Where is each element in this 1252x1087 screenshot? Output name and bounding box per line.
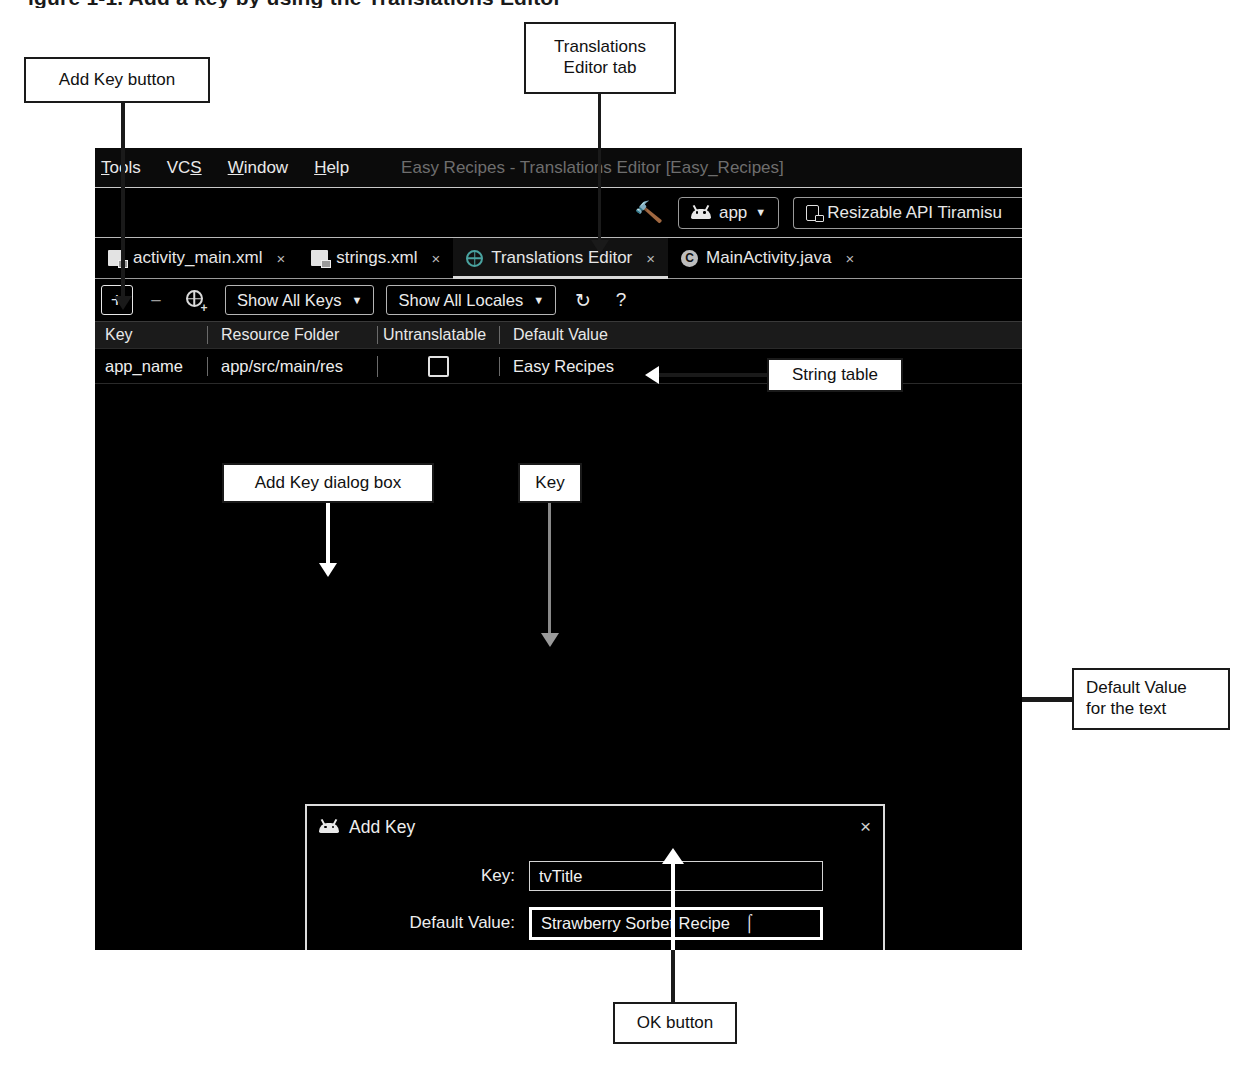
chevron-down-icon: ▼ [533, 295, 544, 306]
cell-resource-folder[interactable]: app/src/main/res [207, 357, 377, 376]
show-all-keys-filter[interactable]: Show All Keys ▼ [225, 285, 374, 315]
tab-mainactivity-java[interactable]: C MainActivity.java × [668, 238, 867, 278]
tab-translations-editor[interactable]: Translations Editor × [453, 238, 668, 278]
key-field-label: Key: [307, 866, 529, 886]
tab-activity-main-xml[interactable]: activity_main.xml × [95, 238, 298, 278]
show-all-locales-label: Show All Locales [398, 291, 523, 310]
callout-translations-editor-tab-line2: Editor tab [564, 58, 637, 79]
main-toolbar: 🔨 app ▼ Resizable API Tiramisu [95, 188, 1022, 238]
callout-ok-button-label: OK button [637, 1013, 714, 1034]
callout-translations-editor-tab: Translations Editor tab [524, 22, 676, 94]
arrowhead-string-table [645, 366, 659, 384]
run-configuration-label: app [719, 203, 747, 223]
leader-ok-button [671, 950, 675, 1002]
menu-item-vcs[interactable]: VCS [167, 158, 202, 178]
default-value-input[interactable]: Strawberry Sorbet Recipe ⌠ [529, 907, 823, 940]
callout-key: Key [518, 463, 582, 503]
leader-add-key-button [121, 103, 125, 303]
tab-activity-main-xml-label: activity_main.xml [133, 248, 262, 268]
close-icon[interactable]: × [845, 250, 854, 267]
key-input-value: tvTitle [539, 867, 582, 886]
callout-translations-editor-tab-line1: Translations [554, 37, 646, 58]
add-key-dialog: Add Key × Key: tvTitle Default Value: St… [305, 804, 885, 950]
callout-add-key-dialog-label: Add Key dialog box [255, 473, 402, 494]
figure-caption-text: igure 1-1. Add a key by using the Transl… [28, 0, 728, 8]
close-icon[interactable]: × [276, 250, 285, 267]
chevron-down-icon: ▼ [352, 295, 363, 306]
editor-tab-bar: activity_main.xml × strings.xml × Transl… [95, 238, 1022, 279]
callout-string-table: String table [767, 358, 903, 392]
tab-mainactivity-java-label: MainActivity.java [706, 248, 831, 268]
device-label: Resizable API Tiramisu [827, 203, 1002, 223]
callout-default-value-line1: Default Value [1086, 678, 1187, 699]
close-icon[interactable]: × [860, 816, 871, 838]
callout-add-key-button-label: Add Key button [59, 70, 175, 91]
menu-bar: Tools VCS Window Help Easy Recipes - Tra… [95, 148, 1022, 188]
callout-ok-button: OK button [613, 1002, 737, 1044]
cell-key[interactable]: app_name [95, 357, 207, 376]
show-all-locales-filter[interactable]: Show All Locales ▼ [386, 285, 556, 315]
arrowhead-add-key-dialog [319, 563, 337, 577]
hammer-icon[interactable]: 🔨 [633, 198, 663, 228]
leader-ok-button-inner [671, 862, 675, 950]
tab-strings-xml-label: strings.xml [336, 248, 417, 268]
string-table-header: Key Resource Folder Untranslatable Defau… [95, 321, 1022, 348]
device-selector[interactable]: Resizable API Tiramisu [793, 197, 1022, 229]
refresh-icon: ↻ [575, 289, 591, 312]
menu-item-window[interactable]: Window [228, 158, 288, 178]
tab-strings-xml[interactable]: strings.xml × [298, 238, 453, 278]
close-icon[interactable]: × [646, 250, 655, 267]
column-header-default-value[interactable]: Default Value [499, 326, 1022, 344]
callout-string-table-label: String table [792, 365, 878, 386]
xml-values-icon [311, 250, 328, 266]
leader-default-value [1022, 697, 1072, 702]
globe-icon [466, 250, 483, 267]
translations-editor-toolbar: + – + Show All Keys ▼ Show All Locales ▼… [95, 279, 1022, 321]
leader-string-table [655, 373, 767, 377]
arrowhead-translations-editor-tab [591, 240, 609, 254]
add-locale-button[interactable]: + [179, 286, 209, 314]
android-robot-icon [319, 821, 339, 833]
menu-item-tools-rest: ools [110, 158, 141, 177]
run-configuration-selector[interactable]: app ▼ [678, 197, 779, 229]
untranslatable-checkbox[interactable] [428, 356, 449, 377]
java-class-icon: C [681, 250, 698, 267]
callout-add-key-dialog: Add Key dialog box [222, 463, 434, 503]
android-robot-icon [691, 207, 711, 219]
callout-add-key-button: Add Key button [24, 57, 210, 103]
android-studio-window: Tools VCS Window Help Easy Recipes - Tra… [95, 148, 1022, 950]
arrowhead-add-key-button [114, 296, 132, 310]
default-value-field-label: Default Value: [307, 913, 529, 933]
column-header-resource-folder[interactable]: Resource Folder [207, 326, 377, 344]
close-icon[interactable]: × [431, 250, 440, 267]
help-button[interactable]: ? [606, 286, 636, 314]
arrowhead-key [541, 633, 559, 647]
menu-item-help[interactable]: Help [314, 158, 349, 178]
tab-translations-editor-label: Translations Editor [491, 248, 632, 268]
figure-caption: igure 1-1. Add a key by using the Transl… [28, 0, 728, 8]
cell-untranslatable[interactable] [377, 356, 499, 377]
callout-key-label: Key [535, 473, 564, 494]
chevron-down-icon: ▼ [755, 207, 766, 218]
column-header-key[interactable]: Key [95, 326, 207, 344]
show-all-keys-label: Show All Keys [237, 291, 342, 310]
default-value-input-value: Strawberry Sorbet Recipe [541, 914, 730, 933]
dialog-title-bar: Add Key × [307, 806, 883, 848]
device-icon [806, 205, 819, 221]
callout-default-value-line2: for the text [1086, 699, 1166, 720]
text-cursor-icon: ⌠ [744, 913, 754, 933]
arrowhead-ok-button [662, 848, 684, 864]
reload-button[interactable]: ↻ [568, 286, 598, 314]
column-header-untranslatable[interactable]: Untranslatable [377, 326, 499, 344]
callout-default-value: Default Value for the text [1072, 668, 1230, 730]
leader-key [548, 503, 551, 639]
leader-add-key-dialog [326, 503, 330, 567]
dialog-row-default-value: Default Value: Strawberry Sorbet Recipe … [307, 907, 883, 939]
dialog-title: Add Key [349, 817, 415, 838]
key-input[interactable]: tvTitle [529, 861, 823, 891]
leader-translations-editor-tab [598, 94, 601, 246]
remove-key-button[interactable]: – [141, 286, 171, 314]
globe-plus-icon: + [186, 288, 203, 312]
dialog-row-key: Key: tvTitle [307, 860, 883, 892]
window-title: Easy Recipes - Translations Editor [Easy… [401, 158, 784, 178]
